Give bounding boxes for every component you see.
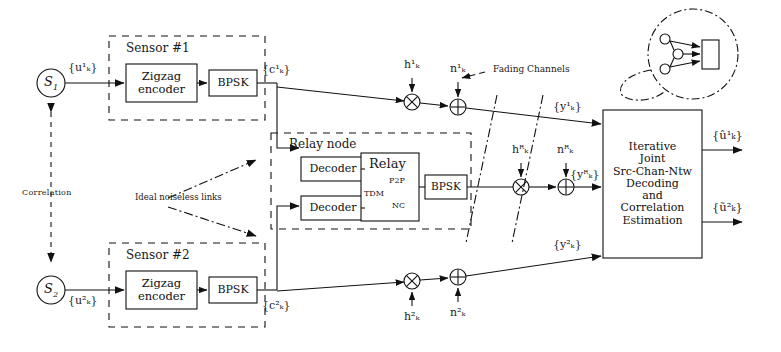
wire-y2-to-receiver xyxy=(466,256,601,276)
relay-core-title: Relay xyxy=(369,156,406,171)
relay-mode-p2p: P2P xyxy=(389,176,405,185)
channel-label-yR: {yᴿₖ} xyxy=(570,168,599,181)
sensor1-encoder-label: Zigzagencoder xyxy=(126,64,197,102)
source-label-s2: S2 xyxy=(37,280,65,300)
relay-title: Relay node xyxy=(289,137,356,151)
ideal-link-arrow-bottom xyxy=(168,207,256,236)
callout-node-top xyxy=(660,34,670,44)
channel-label-n2: n²ₖ xyxy=(450,306,466,319)
channel-label-hR: hᴿₖ xyxy=(512,143,528,156)
fading-divider-right xyxy=(512,95,543,243)
sensor1-title: Sensor #1 xyxy=(126,41,190,55)
source-label-s1: S1 xyxy=(37,73,65,93)
wire-bpsk2-to-decoder2 xyxy=(277,206,299,290)
receiver-label: Iterative Joint Src-Chan-Ntw Decoding an… xyxy=(603,110,702,258)
channel-label-nR: nᴿₖ xyxy=(557,143,573,156)
signal-label-c2: {c²ₖ} xyxy=(262,299,291,312)
relay-decoder1-label: Decoder xyxy=(301,157,365,181)
callout-node-bottom xyxy=(660,64,670,74)
relay-mode-nc: NC xyxy=(392,201,405,210)
figure-canvas: S1 S2 {u¹ₖ} {u²ₖ} Correlation Sensor #1 … xyxy=(0,0,781,352)
channel-label-h1: h¹ₖ xyxy=(404,58,420,71)
wire-c2-to-mixer2 xyxy=(277,282,404,291)
receiver-output-label-2: {ũ²ₖ} xyxy=(712,200,743,214)
wire-c1-to-mixer1 xyxy=(277,87,404,101)
signal-label-u1: {u¹ₖ} xyxy=(68,61,98,74)
callout-node-mid xyxy=(673,49,683,59)
fading-channels-annotation: Fading Channels xyxy=(493,64,570,74)
channel-label-y2: {y²ₖ} xyxy=(553,238,582,251)
relay-decoder2-label: Decoder xyxy=(301,196,365,220)
relay-bpsk-label: BPSK xyxy=(425,175,467,199)
signal-label-u2: {u²ₖ} xyxy=(68,294,98,307)
channel-label-n1: n¹ₖ xyxy=(450,62,466,75)
relay-mode-tdm: TDM xyxy=(364,189,384,198)
correlation-label: Correlation xyxy=(22,188,72,197)
callout-tail xyxy=(620,70,664,100)
sensor1-bpsk-label: BPSK xyxy=(209,70,257,96)
receiver-output-label-1: {û¹ₖ} xyxy=(712,128,743,142)
sensor2-title: Sensor #2 xyxy=(126,248,190,262)
channel-label-y1: {y¹ₖ} xyxy=(553,100,582,113)
ideal-links-label: Ideal noiseless links xyxy=(135,192,222,202)
sensor2-encoder-label: Zigzagencoder xyxy=(126,271,197,309)
channel-label-h2: h²ₖ xyxy=(404,310,420,323)
signal-label-c1: {c¹ₖ} xyxy=(262,63,291,76)
sensor2-bpsk-label: BPSK xyxy=(209,277,257,303)
callout-sink-box xyxy=(702,40,719,69)
